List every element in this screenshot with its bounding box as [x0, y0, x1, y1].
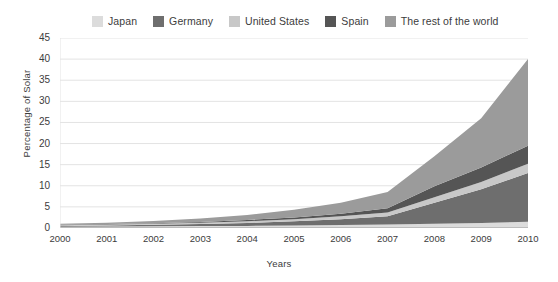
x-axis-tick-label: 2009	[461, 234, 501, 244]
x-axis-tick-labels: 2000200120022003200420052006200720082009…	[0, 0, 558, 282]
x-axis-tick-label: 2003	[180, 234, 220, 244]
x-axis-tick-label: 2006	[321, 234, 361, 244]
x-axis-tick-label: 2005	[274, 234, 314, 244]
x-axis-tick-label: 2000	[40, 234, 80, 244]
x-axis-tick-label: 2008	[414, 234, 454, 244]
x-axis-tick-label: 2002	[134, 234, 174, 244]
x-axis-title: Years	[0, 258, 558, 269]
x-axis-tick-label: 2004	[227, 234, 267, 244]
x-axis-tick-label: 2001	[87, 234, 127, 244]
x-axis-tick-label: 2010	[508, 234, 548, 244]
x-axis-tick-label: 2007	[368, 234, 408, 244]
solar-percentage-stacked-area-chart: JapanGermanyUnited StatesSpainThe rest o…	[0, 0, 558, 282]
